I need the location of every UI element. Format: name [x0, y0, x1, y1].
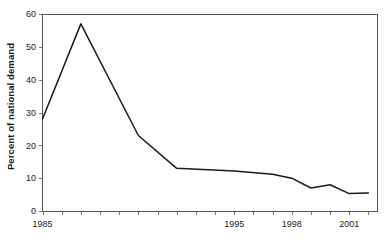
x-tick-label-group: 1985199519982001 — [32, 219, 359, 229]
y-tick-label: 60 — [26, 9, 36, 19]
y-tick-label: 50 — [26, 42, 36, 52]
line-chart-plot: 0102030405060 1985199519982001 — [0, 0, 391, 242]
chart-figure: Percent of national demand 0102030405060… — [0, 0, 391, 242]
x-tick-label: 1985 — [32, 219, 52, 229]
data-series-line — [43, 24, 369, 194]
y-tick-label: 10 — [26, 173, 36, 183]
y-tick-label: 0 — [31, 206, 36, 216]
y-tick-mark-group — [39, 15, 43, 212]
x-tick-label: 1995 — [224, 219, 244, 229]
x-tick-label: 2001 — [339, 219, 359, 229]
y-tick-label-group: 0102030405060 — [26, 9, 36, 216]
y-tick-label: 20 — [26, 141, 36, 151]
y-tick-label: 30 — [26, 108, 36, 118]
y-tick-label: 40 — [26, 75, 36, 85]
x-tick-label: 1998 — [282, 219, 302, 229]
